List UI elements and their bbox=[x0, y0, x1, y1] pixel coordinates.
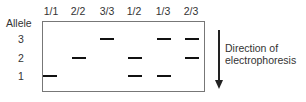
band-1-2-allele-2 bbox=[128, 57, 142, 59]
band-1-2-allele-1 bbox=[128, 75, 142, 77]
band-3-3-allele-3 bbox=[100, 38, 114, 40]
column-label-3-3: 3/3 bbox=[95, 5, 119, 17]
column-label-1-1: 1/1 bbox=[39, 5, 63, 17]
row-label-1: 1 bbox=[16, 70, 26, 82]
band-2-2-allele-2 bbox=[72, 57, 86, 59]
column-label-1-3: 1/3 bbox=[151, 5, 175, 17]
row-label-3: 3 bbox=[16, 33, 26, 45]
direction-label-line1: Direction of bbox=[225, 42, 296, 54]
band-2-3-allele-2 bbox=[185, 57, 199, 59]
column-label-2-2: 2/2 bbox=[66, 5, 90, 17]
direction-label-line2: electrophoresis bbox=[225, 54, 296, 66]
band-1-3-allele-1 bbox=[157, 75, 171, 77]
direction-label: Direction of electrophoresis bbox=[225, 42, 296, 66]
column-label-2-3: 2/3 bbox=[179, 5, 203, 17]
column-label-1-2: 1/2 bbox=[122, 5, 146, 17]
arrow-down-icon bbox=[215, 80, 223, 89]
allele-axis-title: Allele bbox=[6, 17, 32, 29]
band-1-1-allele-1 bbox=[43, 75, 57, 77]
band-2-3-allele-3 bbox=[185, 38, 199, 40]
gel-box bbox=[42, 21, 205, 92]
row-label-2: 2 bbox=[16, 52, 26, 64]
direction-arrow-shaft bbox=[218, 30, 220, 82]
band-1-3-allele-3 bbox=[157, 38, 171, 40]
